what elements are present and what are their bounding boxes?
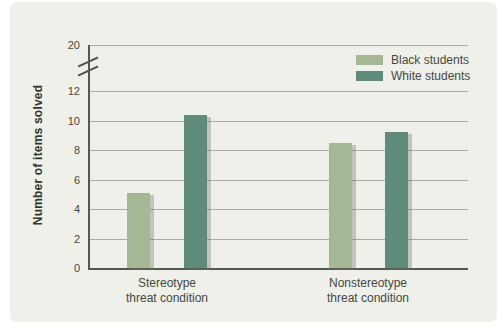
category-label-line: threat condition [97, 291, 237, 306]
y-tick-20: 20 [50, 40, 80, 51]
category-label-line: Nonstereotype [298, 276, 438, 291]
legend-row-white-students: White students [356, 68, 470, 84]
gridline-10 [88, 121, 468, 122]
legend: Black students White students [356, 52, 470, 84]
legend-label-black-students: Black students [391, 54, 469, 66]
y-tick-12: 12 [50, 86, 80, 97]
category-label-2: Nonstereotypethreat condition [298, 276, 438, 306]
y-tick-10: 10 [50, 116, 80, 127]
y-axis-title: Number of items solved [31, 85, 45, 225]
category-label-line: Stereotype [97, 276, 237, 291]
gridline-8 [88, 150, 468, 151]
y-tick-0: 0 [50, 263, 80, 274]
x-axis-line [88, 268, 468, 270]
bar-chart: 02468101220 Stereotypethreat conditionNo… [0, 0, 504, 335]
y-axis-line [88, 45, 90, 268]
y-tick-2: 2 [50, 234, 80, 245]
gridline-6 [88, 180, 468, 181]
gridline-12 [88, 91, 468, 92]
gridline-20 [88, 45, 468, 46]
y-tick-4: 4 [50, 204, 80, 215]
bar-black-students-cat2 [329, 143, 352, 268]
y-tick-6: 6 [50, 175, 80, 186]
y-tick-8: 8 [50, 145, 80, 156]
legend-swatch-white-students [356, 71, 383, 81]
category-label-1: Stereotypethreat condition [97, 276, 237, 306]
legend-label-white-students: White students [391, 70, 470, 82]
legend-row-black-students: Black students [356, 52, 470, 68]
bar-white-students-cat1 [184, 115, 207, 268]
bar-black-students-cat1 [127, 193, 150, 268]
legend-swatch-black-students [356, 55, 383, 65]
category-label-line: threat condition [298, 291, 438, 306]
bar-white-students-cat2 [385, 132, 408, 268]
